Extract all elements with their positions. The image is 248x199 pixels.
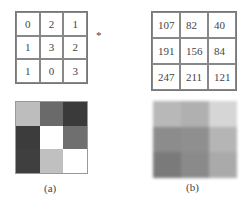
- pixel: [63, 149, 87, 173]
- matrix-a-cell: 0: [16, 12, 40, 36]
- matrix-b-cell: 107: [152, 12, 180, 38]
- pixel: [153, 101, 181, 127]
- matrix-a-cell: 2: [63, 36, 87, 60]
- pixel: [40, 102, 64, 126]
- matrix-b-cell: 156: [180, 38, 208, 64]
- matrix-b-grid: 107 82 40 191 156 84 247 211 121: [151, 11, 237, 91]
- pixel: [40, 126, 64, 150]
- pixel: [16, 102, 40, 126]
- pixel: [181, 127, 209, 153]
- matrix-a-cell: 1: [16, 36, 40, 60]
- matrix-a-cell: 2: [40, 12, 64, 36]
- matrix-b-cell: 40: [208, 12, 236, 38]
- pixel: [63, 102, 87, 126]
- pixel: [16, 149, 40, 173]
- matrix-a-cell: 1: [16, 59, 40, 83]
- image-b-blurred: [153, 101, 237, 178]
- pixel: [209, 101, 237, 127]
- caption-a: (a): [44, 182, 56, 194]
- pixel: [40, 149, 64, 173]
- matrix-a-cell: 0: [40, 59, 64, 83]
- image-a-grayscale: [15, 101, 88, 174]
- pixel: [181, 152, 209, 178]
- matrix-a-cell: 1: [63, 12, 87, 36]
- pixel: [153, 127, 181, 153]
- convolution-operator: *: [96, 29, 102, 41]
- caption-b: (b): [186, 181, 199, 193]
- pixel: [153, 152, 181, 178]
- matrix-b-cell: 191: [152, 38, 180, 64]
- matrix-b-cell: 84: [208, 38, 236, 64]
- matrix-a-cell: 3: [40, 36, 64, 60]
- pixel: [209, 127, 237, 153]
- matrix-b-cell: 211: [180, 64, 208, 90]
- pixel: [63, 126, 87, 150]
- matrix-a-cell: 3: [63, 59, 87, 83]
- pixel: [181, 101, 209, 127]
- pixel: [209, 152, 237, 178]
- matrix-a-grid: 0 2 1 1 3 2 1 0 3: [15, 11, 88, 84]
- matrix-b-cell: 82: [180, 12, 208, 38]
- matrix-b-cell: 247: [152, 64, 180, 90]
- matrix-b-cell: 121: [208, 64, 236, 90]
- pixel: [16, 126, 40, 150]
